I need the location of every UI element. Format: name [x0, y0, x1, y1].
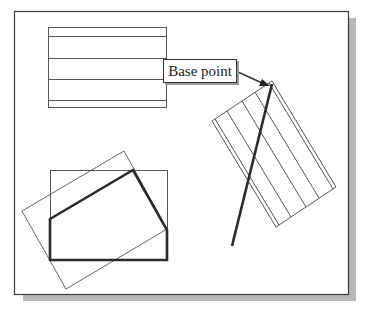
- diagram-canvas: [0, 0, 365, 310]
- base-point-label: Base point: [163, 59, 237, 83]
- frame-shadow-bottom: [23, 295, 356, 301]
- drawing-frame: [15, 12, 349, 295]
- frame-shadow-right: [349, 18, 356, 301]
- base-point-label-text: Base point: [168, 63, 232, 80]
